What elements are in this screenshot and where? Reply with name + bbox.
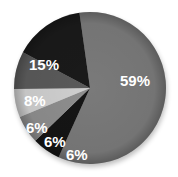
- pie-chart: 59% 6% 6% 6% 8% 15%: [0, 0, 178, 177]
- label-slice-a: 59%: [120, 72, 150, 89]
- label-slice-e: 8%: [24, 92, 46, 109]
- label-slice-b: 6%: [66, 146, 88, 163]
- label-slice-f: 15%: [29, 56, 59, 73]
- label-slice-d: 6%: [26, 119, 48, 136]
